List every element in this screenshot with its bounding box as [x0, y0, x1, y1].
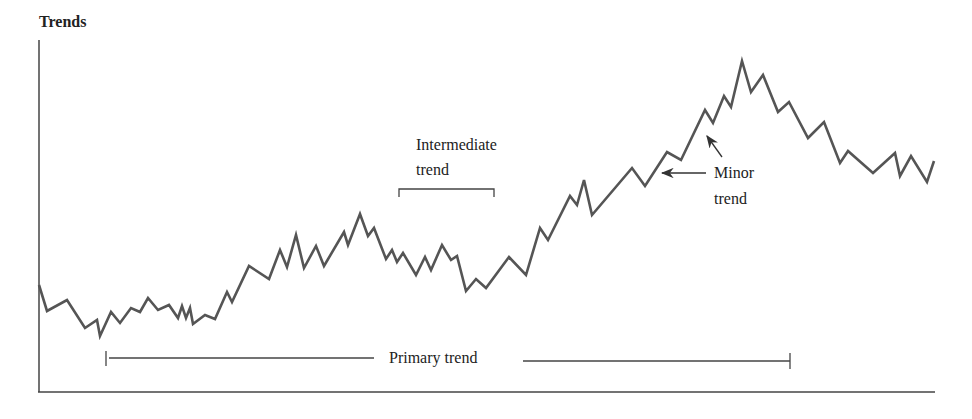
- intermediate-trend-bracket: [399, 189, 494, 197]
- intermediate-label-line2: trend: [416, 160, 449, 180]
- minor-label-line2: trend: [714, 189, 747, 209]
- minor-label-line1: Minor: [714, 163, 754, 183]
- minor-trend-arrow-up: [707, 136, 722, 157]
- price-line: [39, 61, 934, 336]
- intermediate-label-line1: Intermediate: [416, 135, 497, 155]
- trend-chart: [0, 0, 972, 419]
- primary-label: Primary trend: [389, 348, 477, 368]
